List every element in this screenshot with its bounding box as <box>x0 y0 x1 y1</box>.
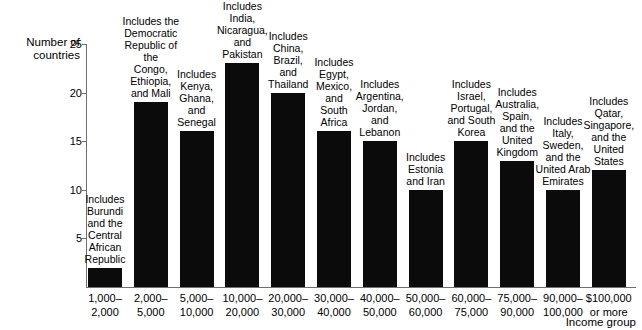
y-tick-label: 15 <box>60 136 82 147</box>
bar-annotation: Includes Qatar, Singapore, and the Unite… <box>576 95 642 167</box>
bar[interactable] <box>546 190 580 287</box>
bar-annotation: Includes Kenya, Ghana, and Senegal <box>164 68 230 128</box>
bar[interactable] <box>409 190 443 287</box>
x-tick-label: $100,000 or more <box>578 291 640 319</box>
bar[interactable] <box>225 63 259 287</box>
bar[interactable] <box>88 268 122 287</box>
bar[interactable] <box>592 170 626 287</box>
y-tick-label: 20 <box>60 88 82 99</box>
bar-annotation: Includes Burundi and the Central African… <box>72 193 138 265</box>
bar[interactable] <box>317 131 351 287</box>
bar-annotation: Includes Estonia and Iran <box>393 151 459 187</box>
bar-group: Includes Kenya, Ghana, and Senegal <box>180 44 214 287</box>
x-axis-title: Income group <box>566 316 636 329</box>
bar[interactable] <box>454 141 488 287</box>
x-axis-line <box>86 287 636 288</box>
bar[interactable] <box>134 102 168 287</box>
x-axis-tick-labels: 1,000– 2,0002,000– 5,0005,000– 10,00010,… <box>86 291 636 323</box>
bar-group: Includes Qatar, Singapore, and the Unite… <box>592 44 626 287</box>
y-tick-label: 25 <box>60 39 82 50</box>
bar-annotation: Includes Argentina, Jordan, and Lebanon <box>347 78 413 138</box>
bar-chart: Number of countries 510152025 Includes B… <box>0 0 642 330</box>
bar-group: Includes Israel, Portugal, and South Kor… <box>454 44 488 287</box>
bar[interactable] <box>180 131 214 287</box>
plot-area: Includes Burundi and the Central African… <box>86 44 636 287</box>
